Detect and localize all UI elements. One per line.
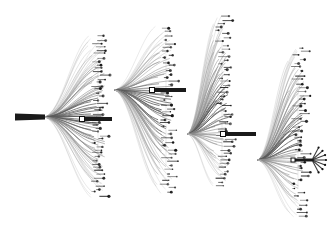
- leaf-node: [218, 29, 220, 31]
- terminal-leaf-node: [324, 154, 326, 156]
- leaf-node: [229, 115, 232, 118]
- leaf-node: [171, 114, 174, 117]
- leaf-node: [102, 95, 105, 98]
- leaf-node: [169, 30, 171, 32]
- leaf-node: [226, 156, 228, 158]
- leaf-node: [223, 95, 225, 97]
- leaf-node: [227, 162, 230, 165]
- leaf-node: [227, 149, 230, 152]
- leaf-node: [300, 136, 302, 138]
- leaf-node: [224, 166, 226, 168]
- leaf-node: [100, 64, 103, 67]
- leaf-node: [230, 66, 232, 68]
- leaf-node: [170, 136, 173, 139]
- leaf-node: [169, 173, 170, 174]
- leaf-node: [173, 108, 175, 110]
- leaf-node: [300, 178, 303, 181]
- leaf-node: [175, 153, 177, 155]
- leaf-node: [101, 43, 103, 45]
- leaf-node: [96, 160, 98, 162]
- leaf-node: [231, 19, 234, 22]
- leaf-node: [229, 122, 232, 125]
- leaf-node: [98, 60, 101, 63]
- leaf-node: [100, 151, 102, 153]
- leaf-node: [227, 32, 230, 35]
- leaf-node: [304, 109, 307, 112]
- leaf-node: [298, 126, 300, 128]
- leaf-node: [297, 62, 300, 65]
- leaf-node: [299, 144, 302, 147]
- leaf-node: [99, 166, 102, 169]
- leaf-node: [99, 127, 102, 130]
- leaf-node: [104, 52, 106, 54]
- leaf-node: [298, 148, 301, 151]
- leaf-node: [96, 180, 98, 182]
- leaf-node: [104, 46, 105, 47]
- leaf-node: [293, 182, 296, 185]
- leaf-node: [163, 56, 166, 59]
- leaf-node: [299, 104, 302, 107]
- leaf-node: [99, 87, 102, 90]
- terminal-leaf-node: [321, 150, 323, 152]
- leaf-node: [101, 149, 103, 151]
- terminal-leaf-node: [324, 164, 326, 166]
- leaf-node: [227, 59, 229, 61]
- leaf-node: [102, 35, 104, 37]
- leaf-node: [174, 186, 176, 188]
- leaf-node: [100, 67, 102, 69]
- leaf-node: [309, 50, 311, 52]
- leaf-node: [228, 159, 231, 162]
- leaf-node: [168, 180, 170, 182]
- leaf-node: [102, 107, 104, 109]
- leaf-node: [170, 46, 172, 48]
- leaf-node: [307, 175, 309, 177]
- leaf-node: [165, 39, 167, 41]
- leaf-node: [171, 157, 173, 159]
- leaf-node: [305, 215, 308, 218]
- terminal-leaf-node: [321, 168, 323, 170]
- leaf-node: [304, 103, 306, 105]
- root-trunk-bar: [15, 114, 45, 121]
- leaf-node: [221, 181, 223, 183]
- leaf-node: [228, 55, 231, 58]
- leaf-node: [306, 86, 309, 89]
- leaf-node: [94, 190, 96, 192]
- leaf-node: [167, 27, 170, 30]
- leaf-node: [310, 153, 312, 155]
- leaf-node: [297, 195, 299, 197]
- leaf-node: [104, 79, 106, 81]
- leaf-node: [230, 105, 232, 107]
- leaf-node: [231, 113, 233, 115]
- leaf-node: [108, 74, 111, 77]
- leaf-node: [309, 95, 311, 97]
- leaf-node: [170, 191, 173, 194]
- leaf-node: [173, 64, 176, 67]
- leaf-node: [295, 133, 298, 136]
- leaf-node: [169, 69, 172, 72]
- leaf-node: [302, 47, 304, 49]
- leaf-node: [101, 146, 103, 148]
- leaf-node: [170, 164, 173, 167]
- terminal-leaf-node: [318, 147, 320, 149]
- leaf-node: [103, 57, 106, 60]
- leaf-node: [225, 110, 227, 112]
- leaf-node: [163, 125, 165, 127]
- leaf-node: [101, 137, 103, 139]
- leaf-node: [174, 149, 177, 152]
- leaf-node: [170, 111, 171, 112]
- leaf-node: [101, 169, 103, 171]
- leaf-node: [301, 78, 303, 80]
- leaf-node: [227, 121, 228, 122]
- junction-node-marker: [221, 132, 226, 137]
- leaf-node: [169, 132, 172, 135]
- leaf-node: [226, 68, 229, 71]
- leaf-node: [227, 45, 229, 47]
- leaf-node: [220, 26, 223, 29]
- leaf-node: [228, 15, 230, 17]
- leaf-node: [228, 84, 230, 86]
- leaf-node: [227, 170, 229, 172]
- leaf-node: [306, 199, 308, 201]
- leaf-node: [174, 43, 176, 45]
- leaf-node: [172, 54, 174, 56]
- leaf-node: [223, 185, 224, 186]
